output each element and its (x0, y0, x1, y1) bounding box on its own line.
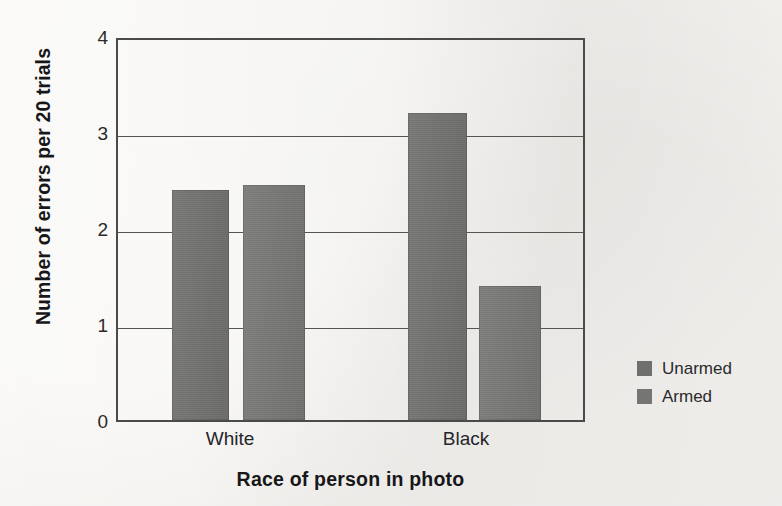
x-axis-title: Race of person in photo (116, 468, 585, 491)
legend-swatch-unarmed-icon (637, 361, 652, 376)
y-axis-title: Number of errors per 20 trials (32, 22, 55, 352)
bar-white-armed[interactable] (243, 185, 305, 420)
y-axis-tick-labels: 0 1 2 3 4 (64, 38, 108, 422)
legend-item-armed[interactable]: Armed (637, 388, 732, 405)
x-tick-white: White (150, 428, 310, 450)
y-tick-2: 2 (68, 220, 108, 239)
plot-area (116, 38, 585, 422)
legend-label-unarmed: Unarmed (662, 360, 732, 377)
legend-item-unarmed[interactable]: Unarmed (637, 360, 732, 377)
bar-white-unarmed[interactable] (172, 190, 229, 420)
y-tick-0: 0 (68, 412, 108, 431)
legend-swatch-armed-icon (637, 389, 652, 404)
bars-layer (118, 40, 583, 420)
legend-label-armed: Armed (662, 388, 712, 405)
bar-chart-figure: 0 1 2 3 4 Number of errors per 20 trials… (0, 0, 782, 506)
x-tick-black: Black (386, 428, 546, 450)
bar-black-unarmed[interactable] (408, 113, 467, 420)
chart-legend: Unarmed Armed (637, 360, 732, 405)
bar-black-armed[interactable] (479, 286, 541, 420)
y-tick-4: 4 (68, 28, 108, 47)
y-tick-1: 1 (68, 316, 108, 335)
y-tick-3: 3 (68, 124, 108, 143)
